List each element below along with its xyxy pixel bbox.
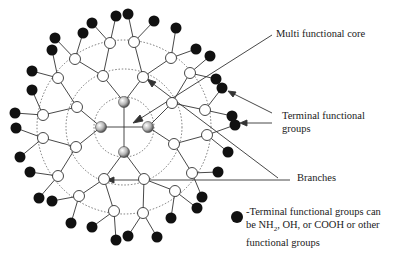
legend-line1: -Terminal functional groups can (246, 206, 381, 217)
legend-line2-pre: be NH (246, 219, 274, 230)
legend-line2-post: , OH, or COOH or other (277, 219, 379, 230)
label-terminal-functional-groups: Terminal functional groups (282, 109, 365, 135)
terminal-arrowhead-lower (240, 120, 247, 126)
legend-note: -Terminal functional groups can be NH2, … (246, 205, 404, 249)
label-terminal-line1: Terminal functional (282, 110, 365, 121)
legend-terminal-group-icon (231, 211, 243, 223)
terminal-arrowhead-upper (228, 91, 236, 97)
label-terminal-line2: groups (282, 123, 311, 134)
branches-arrowhead-upper (147, 79, 156, 87)
label-multi-functional-core: Multi functional core (276, 27, 365, 40)
label-branches: Branches (297, 171, 336, 184)
branch-nodes (38, 37, 213, 219)
core-arrowhead (133, 115, 143, 123)
terminal-pointer-line-upper (232, 93, 272, 113)
legend-line3: functional groups (246, 237, 320, 248)
